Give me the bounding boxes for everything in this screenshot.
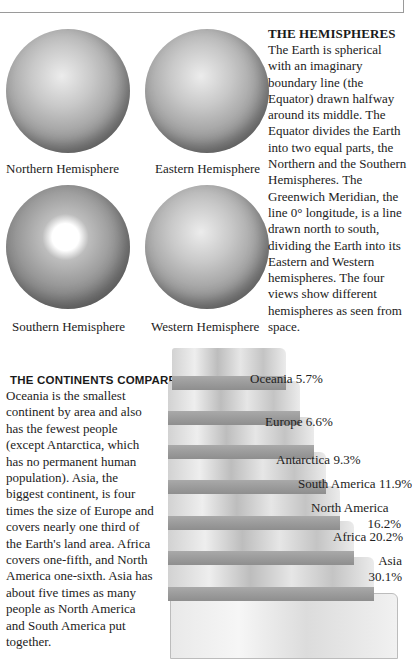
caption-northern-hemisphere: Northern Hemisphere (6, 161, 119, 177)
caption-southern-hemisphere: Southern Hemisphere (12, 319, 125, 335)
label-europe: Europe 6.6% (265, 414, 333, 430)
layer-base (170, 593, 396, 657)
globe-southern-hemisphere (6, 185, 130, 309)
label-asia: Asia30.1% (360, 553, 402, 585)
globe-northern-hemisphere (6, 29, 130, 153)
label-oceania: Oceania 5.7% (250, 371, 323, 387)
label-africa: Africa 20.2% (333, 529, 403, 545)
hemispheres-heading: THE HEMISPHERES (268, 26, 396, 42)
label-antarctica: Antarctica 9.3% (276, 452, 360, 468)
caption-eastern-hemisphere: Eastern Hemisphere (155, 161, 260, 177)
top-frame (0, 0, 404, 13)
caption-western-hemisphere: Western Hemisphere (151, 319, 259, 335)
globe-western-hemisphere (145, 185, 269, 309)
globe-eastern-hemisphere (145, 29, 269, 153)
continents-body: Oceania is the smallest continent by are… (6, 388, 156, 651)
hemispheres-body: The Earth is spherical with an imaginary… (268, 42, 408, 335)
continents-heading: THE CONTINENTS COMPARED (10, 374, 185, 386)
label-north-america: North America16.2% (311, 500, 401, 532)
label-south-america: South America 11.9% (298, 476, 412, 492)
